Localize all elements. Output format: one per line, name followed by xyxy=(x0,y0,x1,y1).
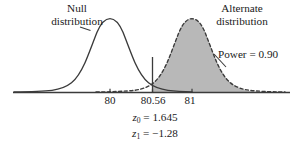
null-label-leader xyxy=(80,27,91,31)
z0-value: = 1.645 xyxy=(143,111,177,123)
z1-value: = −1.28 xyxy=(143,127,178,139)
x-tick-label-81: 81 xyxy=(176,94,204,106)
z1-annotation: z1 = −1.28 xyxy=(2,127,306,139)
power-label: Power = 0.90 xyxy=(218,48,278,61)
z1-subscript: 1 xyxy=(136,132,140,141)
alternate-distribution-label-line1: Alternate xyxy=(221,2,263,14)
null-distribution-label-line1: Null xyxy=(67,2,87,14)
alternate-distribution-label-line2: distribution xyxy=(216,15,268,27)
z0-subscript: 0 xyxy=(137,116,141,125)
power-of-test-figure: Null distribution Alternate distribution… xyxy=(0,0,306,147)
null-distribution-label-line2: distribution xyxy=(51,15,103,27)
x-tick-label-80: 80 xyxy=(95,94,125,106)
x-tick-label-80-56: 80.56 xyxy=(135,94,171,106)
alternate-distribution-label: Alternate distribution xyxy=(196,2,288,27)
z0-annotation: z0 = 1.645 xyxy=(2,111,306,123)
null-distribution-label: Null distribution xyxy=(38,2,116,27)
